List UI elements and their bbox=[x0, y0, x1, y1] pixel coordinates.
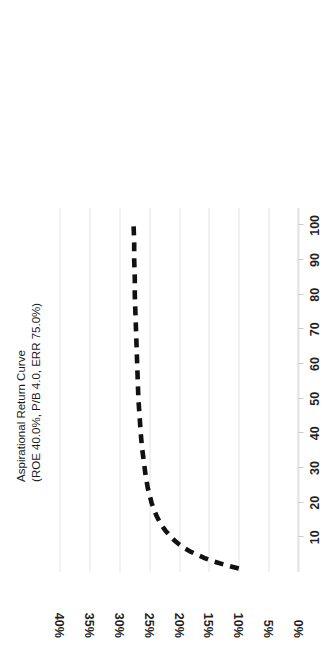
curve-path bbox=[133, 225, 238, 568]
x-tick-mark-9 bbox=[298, 224, 303, 225]
x-tick-label-2: 30 bbox=[307, 448, 321, 488]
x-tick-mark-8 bbox=[298, 259, 303, 260]
x-tick-label-7: 80 bbox=[307, 275, 321, 315]
x-tick-label-1: 20 bbox=[307, 483, 321, 523]
plot-area bbox=[59, 208, 298, 572]
x-tick-label-8: 90 bbox=[307, 240, 321, 280]
x-tick-mark-5 bbox=[298, 363, 303, 364]
x-tick-label-5: 60 bbox=[307, 344, 321, 384]
x-tick-mark-2 bbox=[298, 467, 303, 468]
x-tick-mark-3 bbox=[298, 432, 303, 433]
x-tick-mark-7 bbox=[298, 294, 303, 295]
x-tick-mark-1 bbox=[298, 502, 303, 503]
series-aspirational-return-curve bbox=[43, 198, 305, 578]
x-tick-mark-4 bbox=[298, 398, 303, 399]
rotated-figure-wrapper: 0%5%10%15%20%25%30%35%40% COMPOUND ANNUA… bbox=[0, 0, 327, 650]
annotation-line-2: (ROE 40.0%, P/B 4.0, ERR 75.0%) bbox=[28, 303, 43, 482]
annotation-aspirational-return-curve: Aspirational Return Curve (ROE 40.0%, P/… bbox=[13, 303, 42, 482]
y-tick-label-4: 20% bbox=[171, 582, 185, 638]
chart-page: 0%5%10%15%20%25%30%35%40% COMPOUND ANNUA… bbox=[0, 0, 327, 650]
y-tick-label-1: 5% bbox=[260, 582, 274, 638]
x-tick-label-0: 10 bbox=[307, 517, 321, 557]
x-tick-label-6: 70 bbox=[307, 309, 321, 349]
x-tick-label-3: 40 bbox=[307, 413, 321, 453]
chart-figure: 0%5%10%15%20%25%30%35%40% COMPOUND ANNUA… bbox=[0, 0, 327, 650]
y-tick-label-5: 25% bbox=[141, 582, 155, 638]
y-tick-label-0: 0% bbox=[290, 582, 304, 638]
x-tick-mark-6 bbox=[298, 328, 303, 329]
y-tick-label-3: 15% bbox=[200, 582, 214, 638]
x-tick-label-4: 50 bbox=[307, 379, 321, 419]
x-tick-mark-0 bbox=[298, 536, 303, 537]
y-tick-label-6: 30% bbox=[111, 582, 125, 638]
annotation-line-1: Aspirational Return Curve bbox=[13, 303, 28, 482]
y-tick-label-8: 40% bbox=[51, 582, 65, 638]
x-tick-label-9: 100 bbox=[307, 205, 321, 245]
y-tick-label-7: 35% bbox=[81, 582, 95, 638]
y-tick-label-2: 10% bbox=[230, 582, 244, 638]
